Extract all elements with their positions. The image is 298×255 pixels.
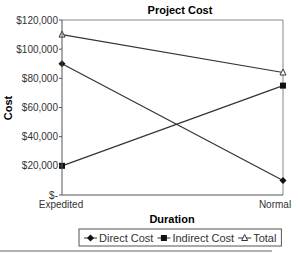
square-marker-icon bbox=[280, 83, 286, 89]
y-tick-label: $120,000 bbox=[16, 15, 58, 26]
legend: Direct CostIndirect CostTotal bbox=[79, 229, 281, 246]
y-tick-label: $40,000 bbox=[22, 131, 59, 142]
legend-label: Indirect Cost bbox=[172, 232, 234, 244]
series-indirect-cost bbox=[59, 83, 286, 169]
diamond-marker-icon bbox=[280, 177, 287, 184]
y-axis-label: Cost bbox=[2, 95, 14, 120]
x-axis: ExpeditedNormal bbox=[39, 195, 291, 210]
y-axis: $-$20,000$40,000$60,000$80,000$100,000$1… bbox=[16, 15, 62, 201]
x-tick-label: Expedited bbox=[39, 199, 83, 210]
chart-title: Project Cost bbox=[148, 4, 213, 16]
y-tick-label: $80,000 bbox=[22, 73, 59, 84]
legend-label: Direct Cost bbox=[99, 232, 153, 244]
plot-area bbox=[59, 20, 287, 195]
series-total bbox=[59, 31, 286, 75]
square-marker-icon bbox=[161, 235, 167, 241]
x-axis-label: Duration bbox=[149, 213, 195, 225]
y-tick-label: $20,000 bbox=[22, 160, 59, 171]
project-cost-chart: Project Cost $-$20,000$40,000$60,000$80,… bbox=[0, 0, 298, 255]
y-tick-label: $60,000 bbox=[22, 102, 59, 113]
y-tick-label: $100,000 bbox=[16, 44, 58, 55]
series-direct-cost bbox=[59, 60, 287, 184]
legend-label: Total bbox=[253, 232, 276, 244]
x-tick-label: Normal bbox=[259, 199, 291, 210]
